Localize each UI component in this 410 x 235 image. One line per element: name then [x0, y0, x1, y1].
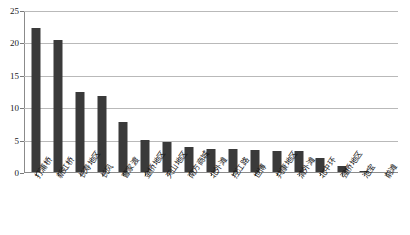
y-tick-mark — [20, 173, 24, 174]
bar-slot[interactable] — [134, 11, 156, 172]
bar-slot[interactable] — [47, 11, 69, 172]
y-tick-label: 25 — [10, 7, 19, 16]
bar-slot[interactable] — [288, 11, 310, 172]
bar-slot[interactable] — [113, 11, 135, 172]
plot-area: 0510152025 — [24, 11, 398, 173]
y-tick-mark — [20, 108, 24, 109]
bar-slot[interactable] — [331, 11, 353, 172]
bar[interactable] — [75, 92, 84, 172]
y-tick-mark — [20, 43, 24, 44]
bar-slot[interactable] — [309, 11, 331, 172]
bar[interactable] — [31, 28, 40, 172]
bar-slot[interactable] — [156, 11, 178, 172]
y-tick-label: 20 — [10, 39, 19, 48]
y-tick-mark — [20, 76, 24, 77]
x-axis-labels: 打浦桥新虹桥长寿地区长风曹家渡金桥地区天山地区南方商城北外滩控江路世博共康地区清… — [24, 176, 398, 235]
y-tick-label: 15 — [10, 71, 19, 80]
bar-slot[interactable] — [91, 11, 113, 172]
bar[interactable] — [53, 40, 62, 172]
bars-layer — [25, 11, 398, 172]
y-tick-mark — [20, 141, 24, 142]
y-tick-label: 5 — [15, 136, 20, 145]
bar-slot[interactable] — [353, 11, 375, 172]
y-tick-mark — [20, 11, 24, 12]
bar-slot[interactable] — [69, 11, 91, 172]
bar-slot[interactable] — [244, 11, 266, 172]
bar-slot[interactable] — [200, 11, 222, 172]
bar-chart: 0510152025 打浦桥新虹桥长寿地区长风曹家渡金桥地区天山地区南方商城北外… — [0, 0, 410, 235]
y-tick-label: 0 — [15, 169, 20, 178]
bar-slot[interactable] — [266, 11, 288, 172]
y-tick-label: 10 — [10, 104, 19, 113]
bar-slot[interactable] — [25, 11, 47, 172]
bar-slot[interactable] — [375, 11, 397, 172]
bar-slot[interactable] — [222, 11, 244, 172]
bar-slot[interactable] — [178, 11, 200, 172]
